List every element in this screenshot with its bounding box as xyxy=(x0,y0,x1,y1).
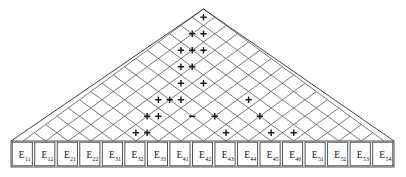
plus-sign-mark xyxy=(178,47,184,53)
plus-sign-mark xyxy=(178,97,184,103)
lattice-line-right xyxy=(102,83,181,141)
element-label: E42 xyxy=(199,150,211,162)
lattice-line-right xyxy=(192,17,361,141)
plus-sign-mark xyxy=(223,130,229,136)
element-label: E46 xyxy=(289,150,301,162)
element-label: E52 xyxy=(334,150,346,162)
element-label: E12 xyxy=(41,150,53,162)
element-label: E44 xyxy=(244,150,256,162)
plus-sign-mark xyxy=(133,130,139,136)
plus-sign-mark xyxy=(245,97,251,103)
lattice-line-left xyxy=(361,133,372,141)
element-label: E33 xyxy=(154,150,166,162)
plus-sign-mark xyxy=(178,80,184,86)
figure-root: E11E12E21E22E31E32E33E41E42E43E44E45E46E… xyxy=(0,0,406,177)
lattice-diagram: E11E12E21E22E31E32E33E41E42E43E44E45E46E… xyxy=(0,0,406,177)
lattice-grid-lines xyxy=(23,9,384,141)
lattice-line-left xyxy=(181,67,282,141)
triangle-outline xyxy=(11,9,394,141)
lattice-line-left xyxy=(91,34,238,141)
element-label: E54 xyxy=(379,150,391,162)
plus-sign-mark xyxy=(166,97,172,103)
plus-sign-mark xyxy=(200,47,206,53)
plus-sign-mark xyxy=(257,113,263,119)
plus-sign-mark xyxy=(144,130,150,136)
element-label: E32 xyxy=(132,150,144,162)
lattice-line-right xyxy=(34,133,45,141)
element-label: E21 xyxy=(64,150,76,162)
element-label: E43 xyxy=(222,150,234,162)
element-label: E51 xyxy=(312,150,324,162)
lattice-line-left xyxy=(136,50,260,141)
element-label: E53 xyxy=(357,150,369,162)
sign-marks-layer xyxy=(133,14,297,136)
plus-sign-mark xyxy=(178,64,184,70)
lattice-line-left xyxy=(271,100,327,141)
plus-sign-mark xyxy=(189,64,195,70)
bottom-row-labels: E11E12E21E22E31E32E33E41E42E43E44E45E46E… xyxy=(19,150,392,162)
plus-sign-mark xyxy=(144,113,150,119)
lattice-outline xyxy=(11,9,394,141)
plus-sign-mark xyxy=(268,130,274,136)
lattice-line-right xyxy=(147,50,271,141)
plus-sign-mark xyxy=(189,31,195,37)
element-label: E41 xyxy=(177,150,189,162)
lattice-line-right xyxy=(79,100,135,141)
plus-sign-mark xyxy=(200,14,206,20)
element-label: E45 xyxy=(267,150,279,162)
plus-sign-mark xyxy=(212,113,218,119)
element-label: E22 xyxy=(86,150,98,162)
plus-sign-mark xyxy=(200,80,206,86)
plus-sign-mark xyxy=(200,31,206,37)
element-label: E11 xyxy=(19,150,31,162)
lattice-line-left xyxy=(46,17,215,141)
plus-sign-mark xyxy=(189,47,195,53)
plus-sign-mark xyxy=(155,113,161,119)
element-label: E31 xyxy=(109,150,121,162)
plus-sign-mark xyxy=(291,130,297,136)
lattice-line-right xyxy=(125,67,226,141)
plus-sign-mark xyxy=(155,97,161,103)
